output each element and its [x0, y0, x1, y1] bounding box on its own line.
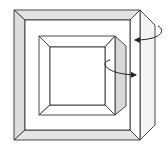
outer-frame-left-bevel — [14, 10, 25, 140]
inner-frame-right-bevel — [105, 36, 115, 115]
diagram-canvas — [0, 0, 168, 148]
outer-frame-bottom-bevel — [14, 130, 140, 140]
inner-frame-bottom-bevel — [39, 105, 115, 115]
outer-frame-top-bevel — [14, 10, 140, 20]
inner-frame — [39, 36, 126, 115]
inner-frame-side-face — [115, 36, 126, 115]
inner-frame-opening — [50, 47, 105, 105]
outer-frame-side-face — [140, 10, 155, 140]
inner-frame-top-bevel — [39, 36, 115, 47]
inner-frame-left-bevel — [39, 36, 50, 115]
